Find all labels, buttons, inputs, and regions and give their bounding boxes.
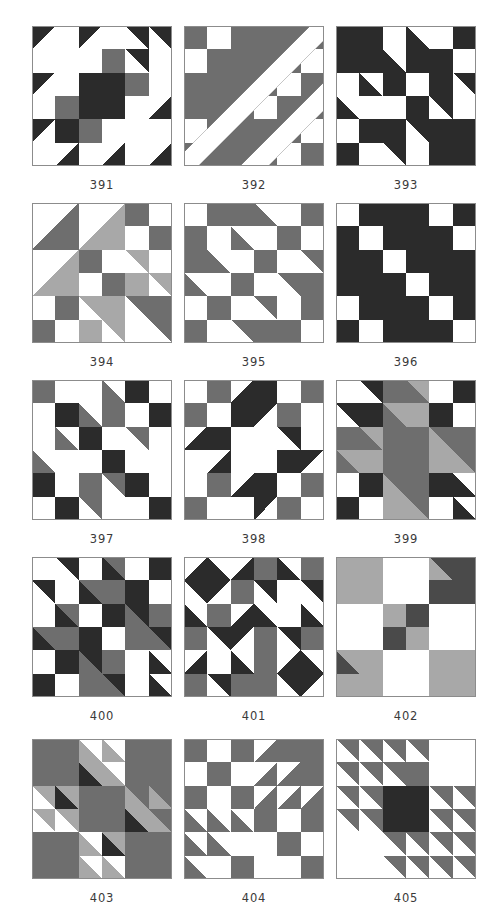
quilt-block-label: 399 bbox=[394, 532, 419, 546]
quilt-block-402 bbox=[336, 557, 476, 697]
quilt-block-401 bbox=[184, 557, 324, 697]
quilt-block-label: 393 bbox=[394, 178, 419, 192]
quilt-block-label: 401 bbox=[242, 709, 267, 723]
quilt-block-cell: 391 bbox=[26, 26, 178, 203]
quilt-block-cell: 405 bbox=[330, 734, 482, 916]
quilt-block-cell: 394 bbox=[26, 203, 178, 380]
quilt-block-395 bbox=[184, 203, 324, 343]
quilt-block-canvas bbox=[336, 557, 476, 697]
quilt-block-canvas bbox=[32, 739, 172, 879]
quilt-block-label: 403 bbox=[90, 891, 115, 905]
quilt-block-canvas bbox=[336, 739, 476, 879]
quilt-block-cell: 400 bbox=[26, 557, 178, 734]
quilt-block-canvas bbox=[32, 203, 172, 343]
quilt-block-cell: 401 bbox=[178, 557, 330, 734]
quilt-block-393 bbox=[336, 26, 476, 166]
quilt-block-canvas bbox=[32, 380, 172, 520]
quilt-block-grid: 3913923933943953963973983994004014024034… bbox=[0, 0, 499, 911]
quilt-block-398 bbox=[184, 380, 324, 520]
quilt-block-canvas bbox=[184, 380, 324, 520]
quilt-block-cell: 399 bbox=[330, 380, 482, 557]
quilt-block-canvas bbox=[32, 26, 172, 166]
quilt-block-canvas bbox=[184, 557, 324, 697]
quilt-block-cell: 396 bbox=[330, 203, 482, 380]
quilt-block-cell: 404 bbox=[178, 734, 330, 916]
quilt-block-405 bbox=[336, 739, 476, 879]
quilt-block-cell: 395 bbox=[178, 203, 330, 380]
quilt-block-canvas bbox=[184, 26, 324, 166]
quilt-block-canvas bbox=[336, 203, 476, 343]
quilt-block-label: 405 bbox=[394, 891, 419, 905]
quilt-block-label: 400 bbox=[90, 709, 115, 723]
quilt-block-396 bbox=[336, 203, 476, 343]
quilt-block-label: 404 bbox=[242, 891, 267, 905]
quilt-block-label: 394 bbox=[90, 355, 115, 369]
quilt-block-403 bbox=[32, 739, 172, 879]
quilt-block-canvas bbox=[336, 380, 476, 520]
quilt-block-397 bbox=[32, 380, 172, 520]
quilt-block-cell: 392 bbox=[178, 26, 330, 203]
quilt-block-cell: 397 bbox=[26, 380, 178, 557]
quilt-block-canvas bbox=[32, 557, 172, 697]
quilt-block-400 bbox=[32, 557, 172, 697]
quilt-block-label: 395 bbox=[242, 355, 267, 369]
quilt-block-label: 398 bbox=[242, 532, 267, 546]
quilt-block-cell: 393 bbox=[330, 26, 482, 203]
quilt-block-canvas bbox=[184, 739, 324, 879]
quilt-block-394 bbox=[32, 203, 172, 343]
quilt-block-404 bbox=[184, 739, 324, 879]
quilt-block-label: 397 bbox=[90, 532, 115, 546]
quilt-block-cell: 398 bbox=[178, 380, 330, 557]
quilt-block-cell: 403 bbox=[26, 734, 178, 916]
quilt-block-cell: 402 bbox=[330, 557, 482, 734]
quilt-block-canvas bbox=[336, 26, 476, 166]
quilt-block-canvas bbox=[184, 203, 324, 343]
quilt-block-label: 392 bbox=[242, 178, 267, 192]
quilt-block-391 bbox=[32, 26, 172, 166]
quilt-block-sheet: 3913923933943953963973983994004014024034… bbox=[0, 0, 499, 920]
quilt-block-label: 396 bbox=[394, 355, 419, 369]
quilt-block-label: 391 bbox=[90, 178, 115, 192]
quilt-block-label: 402 bbox=[394, 709, 419, 723]
quilt-block-392 bbox=[184, 26, 324, 166]
quilt-block-399 bbox=[336, 380, 476, 520]
